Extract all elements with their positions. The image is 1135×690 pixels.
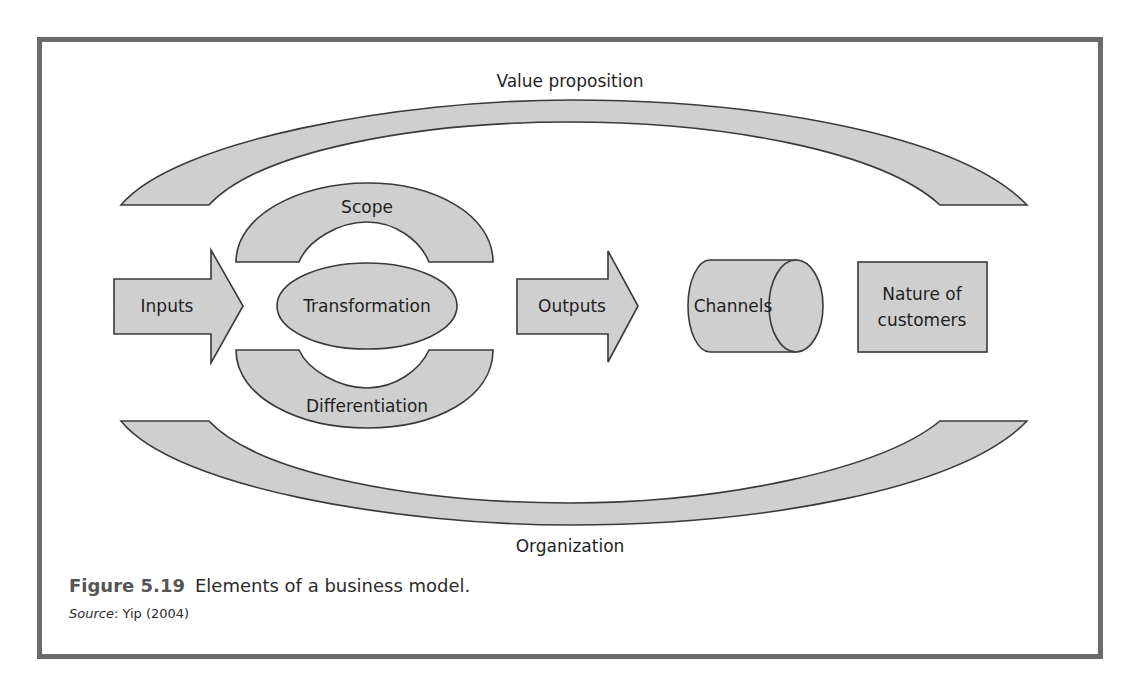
nature-of-customers-line1: Nature of xyxy=(882,284,962,304)
nature-of-customers-line2: customers xyxy=(878,310,967,330)
scope-arc xyxy=(236,183,493,262)
channels-label: Channels xyxy=(694,296,773,316)
nature-of-customers-box xyxy=(858,262,987,352)
source-text: : Yip (2004) xyxy=(114,606,189,621)
figure-caption: Figure 5.19Elements of a business model. xyxy=(69,575,470,596)
scope-label: Scope xyxy=(341,197,393,217)
differentiation-label: Differentiation xyxy=(306,396,428,416)
inputs-label: Inputs xyxy=(141,296,194,316)
channels-cylinder-end xyxy=(769,260,823,352)
value-proposition-arc xyxy=(121,100,1027,205)
organization-label: Organization xyxy=(516,536,625,556)
figure-title: Elements of a business model. xyxy=(195,575,470,596)
value-proposition-label: Value proposition xyxy=(496,71,643,91)
figure-source: Source: Yip (2004) xyxy=(69,606,189,621)
outputs-label: Outputs xyxy=(538,296,606,316)
transformation-label: Transformation xyxy=(302,296,431,316)
organization-arc xyxy=(121,421,1027,525)
source-label: Source xyxy=(69,606,114,621)
differentiation-arc xyxy=(236,350,493,428)
figure-number: Figure 5.19 xyxy=(69,575,185,596)
